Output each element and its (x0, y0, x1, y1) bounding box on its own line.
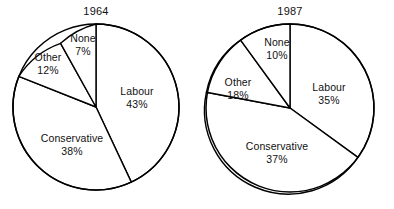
chart-title-1987: 1987 (277, 5, 302, 17)
chart-title-1964: 1964 (83, 5, 108, 17)
pie-chart-figure: 1964 Labour 43% Conservative 38% Other 1… (0, 0, 394, 209)
pie-1987 (204, 24, 374, 194)
pie-1964 (13, 24, 179, 190)
pie-chart-vector-layer (0, 0, 394, 209)
